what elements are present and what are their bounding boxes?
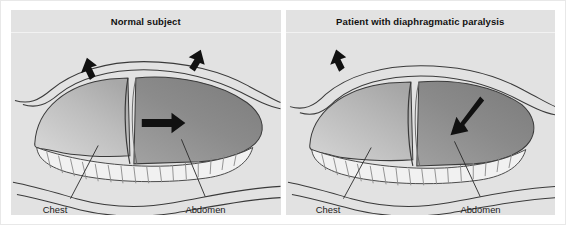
label-chest: Chest <box>43 204 68 215</box>
panel-normal-subject: Normal subject <box>11 10 281 215</box>
panel-header-normal-subject: Normal subject <box>11 10 281 33</box>
label-abdomen: Abdomen <box>185 204 225 215</box>
panels-row: Normal subject <box>11 10 555 215</box>
chest-expansion-arrow-left <box>328 48 348 73</box>
figure-container: Normal subject <box>0 0 566 225</box>
panel-title-normal-subject: Normal subject <box>111 16 181 27</box>
chest-expansion-arrow-left <box>79 56 99 81</box>
panel-title-diaphragmatic-paralysis: Patient with diaphragmatic paralysis <box>336 16 504 27</box>
chest-region <box>35 78 130 157</box>
panel-body-normal-subject: Chest Abdomen <box>11 33 281 215</box>
panel-header-diaphragmatic-paralysis: Patient with diaphragmatic paralysis <box>286 10 556 33</box>
abdomen-region <box>416 81 533 166</box>
label-chest: Chest <box>315 204 340 215</box>
panel-diaphragmatic-paralysis: Patient with diaphragmatic paralysis <box>286 10 556 215</box>
diaphragmatic-paralysis-diagram: Chest Abdomen <box>286 33 556 215</box>
chest-region <box>309 82 412 161</box>
label-abdomen: Abdomen <box>460 204 500 215</box>
panel-body-diaphragmatic-paralysis: Chest Abdomen <box>286 33 556 215</box>
normal-subject-diagram: Chest Abdomen <box>11 33 281 215</box>
